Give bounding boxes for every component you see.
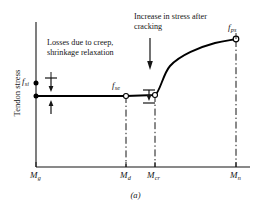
label-f-ps: fps (228, 22, 236, 33)
marker-origin-filled (34, 94, 39, 99)
label-f-ps-sub: ps (231, 26, 237, 33)
xtick-M-n-sub: n (238, 174, 241, 181)
xtick-M-cr-sub: cr (155, 174, 160, 181)
figure-caption: (a) (0, 190, 271, 200)
marker-M-d-open (124, 94, 129, 99)
cracking-arrow-head (147, 61, 153, 70)
xtick-M-d-base: M (120, 170, 128, 180)
label-f-si-sub: si (25, 80, 29, 87)
y-axis-label: Tendon stress (12, 50, 22, 136)
losses-annotation-text: Losses due to creep, shrinkage relaxatio… (47, 38, 119, 57)
droplines (126, 40, 236, 167)
xtick-label-M-cr: Mcr (147, 170, 160, 181)
loss-arrow-upper-head (49, 86, 54, 92)
marker-M-cr-open (153, 93, 158, 98)
label-f-se-sub: se (115, 84, 120, 91)
xtick-M-cr-base: M (147, 170, 155, 180)
xtick-M-d-sub: d (128, 174, 131, 181)
xtick-label-M-n: Mn (230, 170, 241, 181)
xtick-label-M-d: Md (120, 170, 131, 181)
xtick-M-g-sub: g (38, 174, 41, 181)
marker-f-si-filled (34, 81, 39, 86)
label-f-si: fsi (22, 76, 29, 87)
xtick-M-g-base: M (30, 170, 38, 180)
xtick-label-M-g: Mg (30, 170, 41, 181)
xtick-M-n-base: M (230, 170, 238, 180)
cracking-annotation-text: Increase in stress after cracking (134, 12, 222, 31)
figure-tendon-stress-diagram: Tendon stress Losses due to creep, shrin… (0, 0, 271, 211)
label-f-se: fse (112, 80, 120, 91)
x-axis-ticks (36, 162, 236, 167)
cracking-cap-head (147, 95, 152, 101)
loss-arrow-lower-head (49, 100, 54, 106)
